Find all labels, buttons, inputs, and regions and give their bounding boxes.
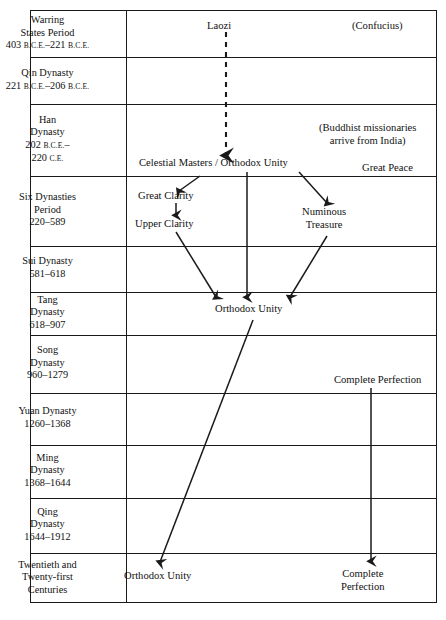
node-line-1: Complete: [341, 568, 385, 581]
era-line: Han: [39, 114, 56, 127]
era-cell-warring-states: Warring States Period 403 B.C.E.–221 B.C…: [0, 10, 95, 56]
node-great-peace: Great Peace: [362, 162, 413, 175]
era-cell-ming: Ming Dynasty 1368–1644: [0, 444, 95, 497]
node-numinous-treasure: Numinous Treasure: [302, 206, 346, 232]
era-line: Period: [34, 204, 61, 217]
era-line: 1260–1368: [24, 418, 70, 431]
era-line: Dynasty: [30, 126, 64, 139]
era-line: Dynasty: [30, 464, 64, 477]
era-line: 403 B.C.E.–221 B.C.E.: [6, 39, 89, 52]
era-line: States Period: [20, 27, 74, 40]
era-line: 220–589: [29, 216, 65, 229]
era-line: 221 B.C.E.–206 B.C.E.: [6, 80, 89, 93]
node-line-1: Numinous: [302, 206, 346, 219]
node-upper-clarity: Upper Clarity: [135, 218, 194, 231]
node-laozi: Laozi: [207, 20, 231, 33]
era-line: 1644–1912: [24, 531, 70, 544]
era-cell-yuan: Yuan Dynasty 1260–1368: [0, 392, 95, 444]
node-great-clarity: Great Clarity: [138, 190, 194, 203]
era-cell-sui: Sui Dynasty 581–618: [0, 245, 95, 291]
era-line: Dynasty: [30, 306, 64, 319]
timeline-diagram: Warring States Period 403 B.C.E.–221 B.C…: [0, 0, 446, 620]
era-line: Sui Dynasty: [22, 255, 73, 268]
era-cell-six-dynasties: Six Dynasties Period 220–589: [0, 175, 95, 245]
era-line: 1368–1644: [24, 477, 70, 490]
node-line-2: arrive from India): [319, 135, 416, 148]
era-line: Centuries: [28, 584, 67, 597]
era-line: Song: [37, 344, 58, 357]
node-line-2: Perfection: [341, 581, 385, 594]
era-cell-qing: Qing Dynasty 1644–1912: [0, 497, 95, 552]
era-line: 581–618: [29, 268, 65, 281]
era-cell-qin: Qin Dynasty 221 B.C.E.–206 B.C.E.: [0, 56, 95, 103]
era-line: Twentieth and: [18, 559, 76, 572]
era-line: 960–1279: [27, 369, 68, 382]
node-celestial-masters: Celestial Masters / Orthodox Unity: [139, 157, 288, 170]
node-orthodox-unity-modern: Orthodox Unity: [124, 570, 191, 583]
era-line: 220 C.E.: [32, 152, 64, 165]
era-cell-modern: Twentieth and Twenty-first Centuries: [0, 552, 95, 603]
era-line: Six Dynasties: [19, 191, 76, 204]
era-line: Yuan Dynasty: [18, 405, 76, 418]
era-line: Qing: [37, 506, 58, 519]
era-line: 202 B.C.E.–: [25, 139, 69, 152]
node-confucius: (Confucius): [352, 20, 403, 33]
era-line: Dynasty: [30, 357, 64, 370]
column-divider: [126, 11, 127, 602]
era-line: Dynasty: [30, 518, 64, 531]
node-line-2: Treasure: [302, 219, 346, 232]
era-line: Tang: [37, 294, 57, 307]
node-complete-perfection-modern: Complete Perfection: [341, 568, 385, 594]
node-orthodox-unity-tang: Orthodox Unity: [215, 303, 282, 316]
era-cell-tang: Tang Dynasty 618–907: [0, 291, 95, 334]
node-buddhist-missionaries: (Buddhist missionaries arrive from India…: [319, 122, 416, 148]
era-line: Ming: [36, 452, 58, 465]
era-line: Twenty-first: [22, 571, 73, 584]
era-cell-han: Han Dynasty 202 B.C.E.– 220 C.E.: [0, 103, 95, 175]
node-line-1: (Buddhist missionaries: [319, 122, 416, 135]
node-complete-perfection-song: Complete Perfection: [334, 374, 421, 387]
era-line: Warring: [31, 14, 64, 27]
era-line: Qin Dynasty: [21, 67, 73, 80]
era-cell-song: Song Dynasty 960–1279: [0, 334, 95, 392]
era-line: 618–907: [29, 319, 65, 332]
